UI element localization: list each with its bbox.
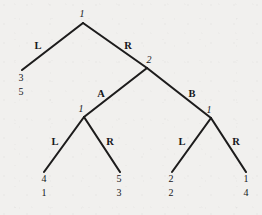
node-player-label-node2: 2 [143, 55, 155, 65]
action-label-n1r-R: R [229, 137, 243, 148]
payoff-n1l-L-player1: 4 [38, 174, 50, 184]
action-label-n1l-L: L [48, 137, 62, 148]
action-label-n1r-L: L [175, 137, 189, 148]
payoff-n1l-R-player2: 3 [113, 188, 125, 198]
game-tree-figure: LRABLRLR12113541532214 [0, 0, 262, 215]
payoff-n1r-R-player2: 4 [240, 188, 252, 198]
action-label-n2-B: B [185, 89, 199, 100]
payoff-n1r-L-player2: 2 [165, 188, 177, 198]
payoff-n1l-R-player1: 5 [113, 174, 125, 184]
payoff-root-L-player1: 3 [15, 73, 27, 83]
action-label-root-R: R [121, 41, 135, 52]
payoff-n1r-L-player1: 2 [165, 174, 177, 184]
branch-edge-n2-B [147, 68, 211, 118]
action-label-n1l-R: R [103, 137, 117, 148]
action-label-root-L: L [31, 41, 45, 52]
node-player-label-node1-left: 1 [75, 104, 87, 114]
action-label-n2-A: A [94, 89, 108, 100]
payoff-root-L-player2: 5 [15, 87, 27, 97]
branch-edge-root-R [83, 23, 147, 68]
payoff-n1l-L-player2: 1 [38, 188, 50, 198]
node-player-label-node1-right: 1 [203, 105, 215, 115]
payoff-n1r-R-player1: 1 [240, 174, 252, 184]
node-player-label-root: 1 [76, 9, 88, 19]
